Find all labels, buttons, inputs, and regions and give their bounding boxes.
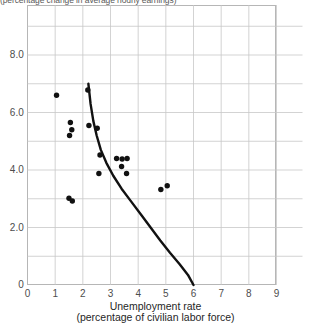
x-tick-label: 8 (240, 289, 258, 299)
x-tick-label: 1 (46, 289, 64, 299)
y-tick-label: 6.0 (0, 108, 24, 118)
y-tick-label: 4.0 (0, 165, 24, 175)
y-tick-label: 8.0 (0, 50, 24, 60)
y-tick-label: 2.0 (0, 223, 24, 233)
x-tick-label: 0 (19, 289, 37, 299)
x-tick-label: 2 (74, 289, 92, 299)
x-tick-label: 4 (129, 289, 147, 299)
x-tick-label: 7 (212, 289, 230, 299)
x-tick-label: 6 (185, 289, 203, 299)
x-tick-label: 9 (268, 289, 286, 299)
x-tick-label: 3 (102, 289, 120, 299)
chart-figure: (percentage change in average hourly ear… (0, 0, 311, 324)
plot-area-frame (27, 5, 276, 285)
x-tick-label: 5 (157, 289, 175, 299)
x-axis-label-line2: (percentage of civilian labor force) (0, 311, 311, 323)
